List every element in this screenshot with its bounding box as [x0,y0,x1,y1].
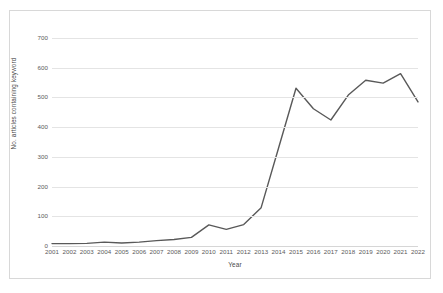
y-tick-label-700: 700 [22,35,48,41]
gridline-600 [52,68,418,69]
chart-figure: 0100200300400500600700 No. articles cont… [0,0,443,293]
series-line-no-articles [52,74,418,244]
gridline-0 [52,246,418,247]
gridline-500 [52,97,418,98]
x-axis-tick-labels: 2001200220032004200520062007200820092010… [52,249,418,261]
y-tick-label-500: 500 [22,94,48,100]
x-tick-label-2022: 2022 [407,249,429,255]
x-axis-title: Year [52,261,418,268]
y-tick-label-600: 600 [22,65,48,71]
gridline-200 [52,187,418,188]
plot-area [52,38,418,246]
y-tick-label-100: 100 [22,213,48,219]
y-tick-label-300: 300 [22,154,48,160]
y-tick-label-400: 400 [22,124,48,130]
gridline-700 [52,38,418,39]
gridline-100 [52,216,418,217]
line-series-chart [52,38,418,246]
gridline-300 [52,157,418,158]
y-tick-label-200: 200 [22,184,48,190]
gridline-400 [52,127,418,128]
y-axis-title: No. articles containing keyword [10,29,17,179]
